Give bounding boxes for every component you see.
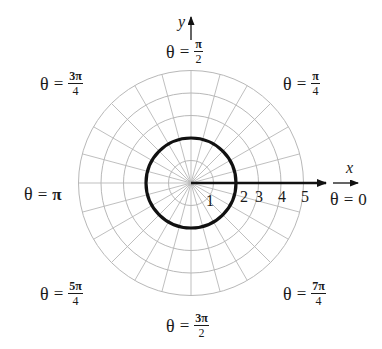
angle-label-theta-3pi-over-4: θ=3π4 — [40, 70, 83, 97]
radial-line — [94, 127, 191, 183]
radial-line — [82, 183, 191, 212]
angle-fraction: 5π4 — [68, 280, 83, 307]
angle-label-theta-7pi-over-4: θ=7π4 — [283, 280, 326, 307]
theta-symbol: θ — [166, 43, 175, 61]
equals-sign: = — [54, 285, 64, 302]
equals-sign: = — [297, 75, 307, 92]
radius-tick-label: 5 — [301, 189, 309, 205]
fraction-denominator: 4 — [73, 294, 79, 307]
fraction-denominator: 4 — [316, 294, 322, 307]
angle-fraction: 7π4 — [311, 280, 326, 307]
fraction-denominator: 2 — [196, 52, 202, 65]
radial-line — [82, 154, 191, 183]
angle-label-theta-pi-over-4: θ=π4 — [283, 70, 320, 97]
radial-line — [191, 127, 288, 183]
equals-sign: = — [180, 43, 190, 60]
radial-line — [111, 183, 191, 263]
equals-sign: = — [180, 317, 190, 334]
fraction-denominator: 2 — [199, 326, 205, 339]
radial-line — [111, 103, 191, 183]
angle-fraction: 3π2 — [194, 312, 209, 339]
radial-line — [94, 183, 191, 239]
radial-line — [191, 86, 247, 183]
radial-line — [191, 154, 300, 183]
theta-symbol: θ — [40, 285, 49, 303]
theta-symbol: θ — [283, 285, 292, 303]
theta-symbol: θ — [24, 185, 33, 203]
angle-label-theta-pi: θ=π — [24, 185, 62, 203]
theta-symbol: θ — [40, 75, 49, 93]
angle-value: π — [52, 186, 61, 203]
angle-label-theta-5pi-over-4: θ=5π4 — [40, 280, 83, 307]
equals-sign: = — [54, 75, 64, 92]
radial-line — [191, 183, 247, 280]
equals-sign: = — [38, 186, 48, 203]
equals-sign: = — [344, 191, 354, 208]
radial-line — [162, 183, 191, 292]
fraction-numerator: 3π — [68, 70, 83, 84]
fraction-numerator: π — [194, 38, 203, 52]
radial-line — [135, 183, 191, 280]
radial-line — [191, 103, 271, 183]
equals-sign: = — [297, 285, 307, 302]
y-axis-label: y — [178, 14, 185, 30]
x-axis-label: x — [346, 160, 353, 176]
radial-line — [135, 86, 191, 183]
theta-symbol: θ — [283, 75, 292, 93]
fraction-numerator: 7π — [311, 280, 326, 294]
radius-tick-label: 2 — [240, 189, 248, 205]
angle-value: 0 — [358, 191, 367, 208]
radius-tick-label: 1 — [206, 193, 214, 209]
theta-symbol: θ — [330, 190, 339, 208]
fraction-numerator: π — [311, 70, 320, 84]
fraction-denominator: 4 — [313, 84, 319, 97]
angle-label-theta-pi-over-2: θ=π2 — [166, 38, 203, 65]
radius-tick-label: 3 — [255, 189, 263, 205]
angle-fraction: π4 — [311, 70, 320, 97]
theta-symbol: θ — [166, 317, 175, 335]
angle-fraction: π2 — [194, 38, 203, 65]
radial-line — [162, 74, 191, 183]
fraction-numerator: 3π — [194, 312, 209, 326]
angle-label-theta-0: θ=0 — [330, 190, 367, 208]
fraction-numerator: 5π — [68, 280, 83, 294]
angle-label-theta-3pi-over-2: θ=3π2 — [166, 312, 209, 339]
radius-tick-label: 4 — [278, 189, 286, 205]
fraction-denominator: 4 — [73, 84, 79, 97]
angle-fraction: 3π4 — [68, 70, 83, 97]
radial-line — [191, 74, 220, 183]
